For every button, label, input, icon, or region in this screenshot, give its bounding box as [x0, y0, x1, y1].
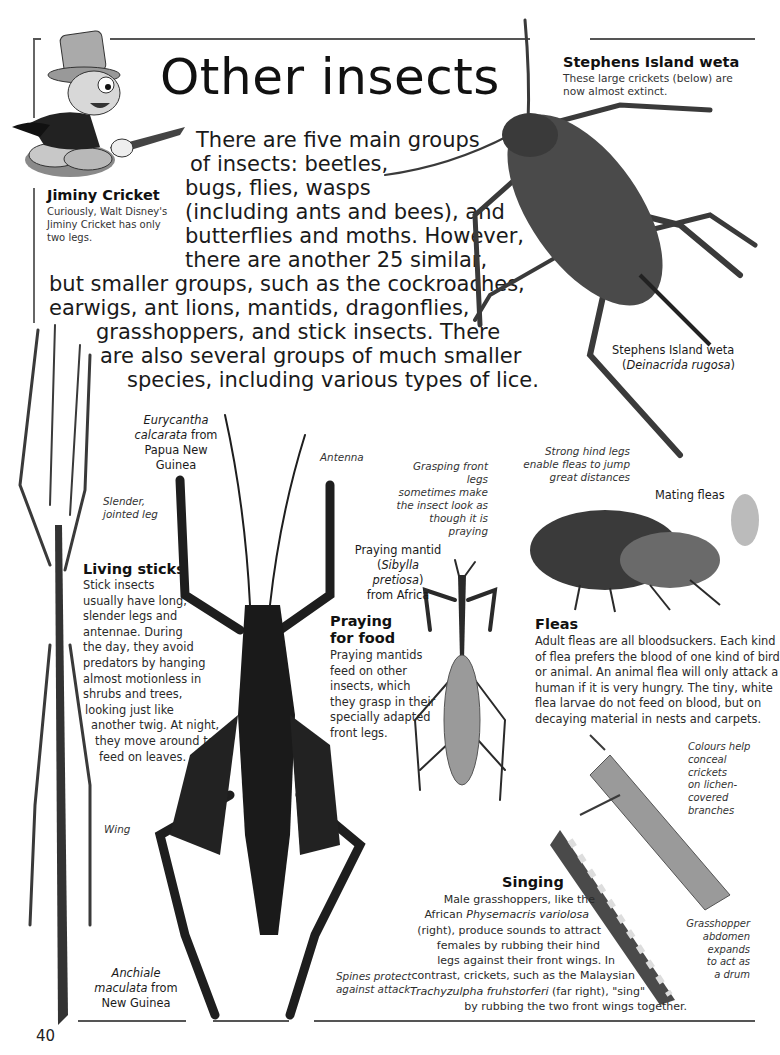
eurycantha-place2: Guinea — [133, 458, 219, 473]
singing-text: contrast, crickets, such as the Malaysia… — [411, 969, 635, 982]
weta-label: Stephens Island weta (Deinacrida rugosa) — [612, 343, 735, 373]
singing-line: legs against their front wings. In — [380, 953, 695, 968]
singing-text: (far right), "sing" — [549, 985, 645, 998]
note-line: on lichen- — [688, 779, 755, 792]
body-line: of flea prefers the blood of one kind of… — [535, 650, 780, 666]
intro-line: bugs, flies, wasps — [185, 176, 371, 201]
note-grasping: Grasping front legs sometimes make the i… — [390, 460, 488, 538]
singing-text: by rubbing the two front wings together. — [464, 1000, 687, 1013]
page-number: 40 — [36, 1027, 55, 1045]
eurycantha-latin1: Eurycantha — [144, 413, 209, 427]
body-line: flea larvae do not feed on blood, but on — [535, 696, 780, 712]
weta-illustration — [380, 15, 755, 455]
note-colours: Colours help conceal crickets on lichen-… — [688, 741, 755, 818]
body-line: specially adapted — [330, 710, 435, 726]
mantid-label-latin: (Sibylla pretiosa) — [353, 558, 443, 588]
singing-text: females by rubbing their hind — [437, 939, 600, 952]
mantid-latin: Sibylla pretiosa — [373, 558, 420, 587]
weta-label-latin: (Deinacrida rugosa) — [612, 358, 735, 373]
note-line: Grasping front legs — [390, 460, 488, 486]
singing-text: Male grasshoppers, like the — [444, 893, 595, 906]
fleas-illustration — [520, 500, 755, 615]
note-hind-legs: Strong hind legs enable fleas to jump gr… — [520, 445, 630, 484]
singing-line: contrast, crickets, such as the Malaysia… — [380, 968, 695, 983]
body-line: decaying material in nests and carpets. — [535, 712, 780, 728]
singing-line: by rubbing the two front wings together. — [380, 999, 695, 1014]
weta-label-name: Stephens Island weta — [612, 343, 735, 358]
praying-heading-line2: for food — [330, 630, 395, 647]
body-line: they grasp in their — [330, 695, 435, 711]
eurycantha-label: Eurycantha calcarata from Papua New Guin… — [133, 413, 219, 473]
singing-body: Male grasshoppers, like the African Phys… — [380, 892, 695, 1014]
body-line: Praying mantids — [330, 648, 435, 664]
mantid-label-from: from Africa — [353, 588, 443, 603]
body-line: feed on other — [330, 664, 435, 680]
body-line: human if it is very hungry. The tiny, wh… — [535, 681, 780, 697]
bottom-rule-3 — [314, 1020, 755, 1022]
praying-heading-line1: Praying — [330, 613, 395, 630]
singing-line: African Physemacris variolosa — [380, 907, 695, 922]
mantid-label: Praying mantid (Sibylla pretiosa) from A… — [353, 543, 443, 603]
intro-line: of insects: beetles, — [190, 152, 388, 177]
body-line: or animal. An animal flea will only atta… — [535, 665, 780, 681]
eurycantha-illustration — [130, 415, 360, 1035]
physemacris-latin: Physemacris variolosa — [466, 908, 589, 921]
mantid-label-name: Praying mantid — [353, 543, 443, 558]
praying-body: Praying mantids feed on other insects, w… — [330, 648, 435, 742]
note-line: the insect look as — [390, 499, 488, 512]
eurycantha-from: from — [187, 428, 217, 442]
weta-latin: Deinacrida rugosa — [626, 358, 730, 372]
note-line: though it is praying — [390, 512, 488, 538]
singing-line: Male grasshoppers, like the — [380, 892, 695, 907]
note-line: sometimes make — [390, 486, 488, 499]
singing-line: (right), produce sounds to attract — [380, 923, 695, 938]
singing-text: (right), produce sounds to attract — [417, 924, 601, 937]
note-line: enable fleas to jump — [520, 458, 630, 471]
body-line: front legs. — [330, 726, 435, 742]
singing-text: legs against their front wings. In — [437, 954, 615, 967]
eurycantha-place1: Papua New — [133, 443, 219, 458]
note-wing: Wing — [104, 823, 130, 836]
note-line: branches — [688, 805, 755, 818]
singing-heading: Singing — [502, 874, 564, 891]
note-line: great distances — [520, 471, 630, 484]
note-line: conceal crickets — [688, 754, 755, 780]
body-line: Adult fleas are all bloodsuckers. Each k… — [535, 634, 780, 650]
note-line: Colours help — [688, 741, 755, 754]
note-line: Strong hind legs — [520, 445, 630, 458]
fleas-heading: Fleas — [535, 616, 578, 633]
note-line: covered — [688, 792, 755, 805]
praying-heading: Praying for food — [330, 613, 395, 647]
body-line: insects, which — [330, 679, 435, 695]
note-antenna: Antenna — [320, 451, 364, 464]
singing-line: Trachyzulpha fruhstorferi (far right), "… — [380, 984, 695, 999]
singing-line: females by rubbing their hind — [380, 938, 695, 953]
singing-text: African — [424, 908, 466, 921]
eurycantha-latin2: calcarata — [135, 428, 188, 442]
fleas-body: Adult fleas are all bloodsuckers. Each k… — [535, 634, 780, 728]
trachyzulpha-latin: Trachyzulpha fruhstorferi — [410, 985, 549, 998]
